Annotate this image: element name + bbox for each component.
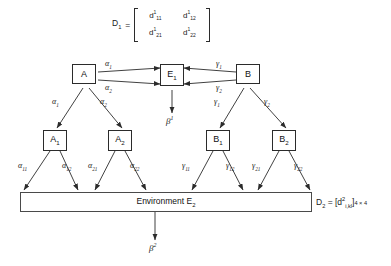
label-b-to-b2: γ2 [264, 98, 270, 108]
label-a-to-e1-upper: α1 [105, 60, 112, 70]
label-b-to-e1-upper: γ1 [216, 60, 222, 70]
edge-b-to-e1-upper [184, 68, 236, 72]
label-a1-left: α11 [18, 162, 27, 172]
label-a-to-a2: α2 [100, 98, 107, 108]
label-b1-left: γ11 [182, 162, 190, 172]
edge-b2-left [258, 151, 279, 190]
label-b-to-e1-lower: γ2 [216, 84, 222, 94]
node-b-label: B [245, 70, 251, 79]
node-b[interactable]: B [236, 64, 260, 84]
edge-a-to-a1 [57, 88, 83, 128]
edge-b1-left [192, 151, 213, 190]
node-b2-label: B2 [279, 135, 288, 146]
label-a-to-e1-lower: α2 [105, 84, 112, 94]
diagram-canvas: D1 = d111 d112 d121 d122 [0, 0, 391, 266]
label-beta1: β1 [166, 116, 173, 126]
node-a[interactable]: A [72, 64, 96, 84]
node-a2[interactable]: A2 [108, 130, 132, 151]
node-b1[interactable]: B1 [206, 130, 230, 151]
node-a1[interactable]: A1 [43, 130, 67, 151]
edge-a-to-a2 [89, 88, 122, 128]
label-b-to-b1: γ1 [214, 98, 220, 108]
node-a2-label: A2 [115, 135, 124, 146]
node-b2[interactable]: B2 [272, 130, 296, 151]
node-a-label: A [81, 70, 87, 79]
edge-b-to-b2 [250, 88, 286, 128]
node-e1[interactable]: E1 [160, 64, 184, 86]
environment-bar[interactable]: Environment E2 [20, 192, 312, 212]
label-b2-left: γ21 [252, 162, 260, 172]
label-a-to-a1: α1 [52, 98, 59, 108]
node-b1-label: B1 [213, 135, 222, 146]
label-b2-right: γ22 [294, 162, 302, 172]
edge-b-to-e1-lower [184, 80, 236, 84]
node-e1-label: E1 [167, 70, 176, 81]
edge-a1-left [24, 151, 50, 190]
edge-b-to-b1 [220, 88, 244, 128]
matrix-d2: D2 = [d2i,kl]4 × 4 [316, 197, 367, 209]
label-a1-right: α12 [62, 162, 71, 172]
environment-label: Environment E2 [136, 196, 195, 208]
edge-a2-left [95, 151, 115, 190]
node-a1-label: A1 [50, 135, 59, 146]
label-a2-left: α21 [88, 162, 97, 172]
label-b1-right: γ12 [226, 162, 234, 172]
label-beta2: β2 [149, 243, 156, 253]
label-a2-right: α22 [130, 162, 139, 172]
